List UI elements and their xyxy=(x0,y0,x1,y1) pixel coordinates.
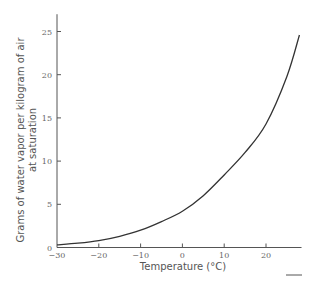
y-tick-label: 25 xyxy=(42,28,52,37)
y-tick-label: 20 xyxy=(42,71,52,80)
x-tick-label: 20 xyxy=(261,251,271,260)
y-axis-title-line1: Grams of water vapor per kilogram of air xyxy=(15,37,26,243)
y-axis: 0510152025 xyxy=(42,14,61,252)
x-axis-title: Temperature (°C) xyxy=(139,261,226,272)
plot-area xyxy=(57,35,299,245)
x-tick-label: −10 xyxy=(132,251,149,260)
chart: 0510152025 −30−20−1001020 Temperature (°… xyxy=(0,0,322,288)
saturation-curve xyxy=(57,35,299,245)
x-tick-label: 10 xyxy=(219,251,229,260)
y-tick-label: 15 xyxy=(42,114,52,123)
y-tick-label: 10 xyxy=(42,157,52,166)
y-axis-title-line2: at saturation xyxy=(27,108,38,172)
x-tick-label: −20 xyxy=(90,251,107,260)
x-tick-label: −30 xyxy=(49,251,66,260)
x-tick-label: 0 xyxy=(180,251,185,260)
x-axis: −30−20−1001020 xyxy=(49,244,302,260)
y-tick-label: 5 xyxy=(47,200,52,209)
